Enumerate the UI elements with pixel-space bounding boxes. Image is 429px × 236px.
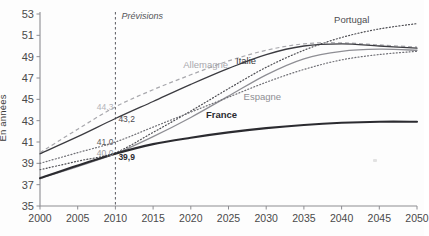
y-axis-tick-label: 35 xyxy=(22,200,34,212)
x-axis-tick-label: 2030 xyxy=(255,212,278,224)
x-axis-tick-label: 2015 xyxy=(141,212,164,224)
x-axis-tick-label: 2045 xyxy=(368,212,391,224)
series-label-espagne: Espagne xyxy=(244,91,282,102)
series-label-allemagne: Allemagne xyxy=(183,59,228,70)
x-axis-tick-label: 2040 xyxy=(330,212,353,224)
series-label-italie: Italie xyxy=(236,55,256,66)
data-label-40-0: 40,0 xyxy=(97,148,114,158)
data-label-41-0: 41,0 xyxy=(97,137,114,147)
page-speck-artifact xyxy=(373,159,377,162)
series-label-portugal: Portugal xyxy=(334,14,369,25)
x-axis-tick-label: 2020 xyxy=(179,212,202,224)
y-axis-tick-label: 43 xyxy=(22,115,34,127)
data-label-44-3: 44,3 xyxy=(97,102,114,112)
y-axis-tick-label: 51 xyxy=(22,29,34,41)
forecast-annotation-label: Prévisions xyxy=(121,11,163,21)
x-axis-tick-label: 2005 xyxy=(66,212,89,224)
data-label-39-9: 39,9 xyxy=(118,152,135,162)
x-axis-tick-label: 2010 xyxy=(104,212,127,224)
y-axis-tick-label: 41 xyxy=(22,136,34,148)
series-label-france: France xyxy=(206,109,237,120)
x-axis-tick-label: 2025 xyxy=(217,212,240,224)
data-label-43-2: 43,2 xyxy=(118,114,135,124)
x-axis-tick-label: 2035 xyxy=(292,212,315,224)
y-axis-tick-label: 49 xyxy=(22,51,34,63)
y-axis-tick-label: 45 xyxy=(22,93,34,105)
y-axis-tick-label: 53 xyxy=(22,8,34,20)
x-axis-tick-label: 2000 xyxy=(28,212,51,224)
y-axis-tick-label: 37 xyxy=(22,179,34,191)
y-axis-tick-label: 39 xyxy=(22,157,34,169)
y-axis-tick-label: 47 xyxy=(22,72,34,84)
x-axis-tick-label: 2050 xyxy=(405,212,428,224)
